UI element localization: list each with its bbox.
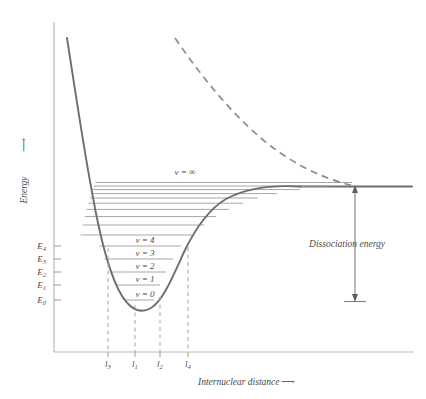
distance-tick-label-l3: l3 <box>105 359 112 370</box>
vib-label-v0: v = 0 <box>135 289 155 299</box>
repulsive-curve-dashed <box>175 38 357 187</box>
distance-tick-group <box>108 352 188 357</box>
vib-label-infinity: v = ∞ <box>175 167 196 177</box>
energy-tick-label-e0: E0 <box>36 295 47 306</box>
x-axis-arrow: ⟶ <box>281 377 295 387</box>
vib-label-v3: v = 3 <box>135 248 155 258</box>
vib-label-v1: v = 1 <box>135 274 154 284</box>
distance-tick-labels: l3 l1 l2 l4 <box>105 359 192 370</box>
energy-tick-group <box>54 246 61 300</box>
morse-potential-figure: E4 E3 E2 E1 E0 l3 l1 l2 <box>0 0 426 399</box>
distance-tick-label-l4: l4 <box>185 359 192 370</box>
energy-tick-labels: E4 E3 E2 E1 E0 <box>36 241 47 306</box>
energy-tick-label-e4: E4 <box>36 241 47 252</box>
potential-energy-diagram: E4 E3 E2 E1 E0 l3 l1 l2 <box>0 0 426 399</box>
distance-tick-label-l1: l1 <box>132 359 138 370</box>
y-axis-arrow: ⟶ <box>19 138 29 152</box>
y-axis-title: Energy <box>19 176 29 205</box>
vib-label-v2: v = 2 <box>135 261 155 271</box>
diss-arrow-head-bottom <box>352 294 358 302</box>
energy-tick-label-e2: E2 <box>36 267 47 278</box>
vibrational-quantum-labels: v = ∞ v = 4 v = 3 v = 2 v = 1 v = 0 <box>135 167 195 299</box>
y-axis-title-group: Energy ⟶ <box>19 138 29 205</box>
x-axis-title-group: Internuclear distance ⟶ <box>197 377 295 387</box>
distance-tick-label-l2: l2 <box>157 359 164 370</box>
energy-tick-label-e3: E3 <box>36 254 47 265</box>
dissociation-energy-label: Dissociation energy <box>308 239 386 249</box>
x-axis-title: Internuclear distance <box>197 377 280 387</box>
vib-label-v4: v = 4 <box>135 235 155 245</box>
energy-tick-label-e1: E1 <box>36 280 46 291</box>
